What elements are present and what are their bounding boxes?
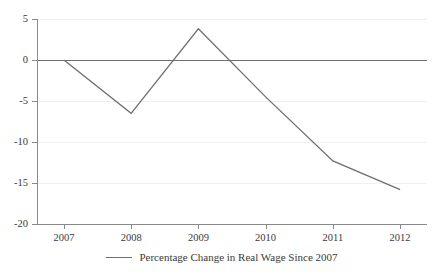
series-line-real-wage: [64, 29, 400, 190]
chart-legend: Percentage Change in Real Wage Since 200…: [0, 252, 444, 263]
legend-line-swatch: [106, 257, 132, 259]
data-series-layer: [0, 0, 444, 278]
line-chart-figure: 50-5-10-15-20 200720082009201020112012 P…: [0, 0, 444, 278]
legend-entry-real-wage: Percentage Change in Real Wage Since 200…: [106, 252, 337, 263]
legend-label: Percentage Change in Real Wage Since 200…: [139, 252, 337, 263]
